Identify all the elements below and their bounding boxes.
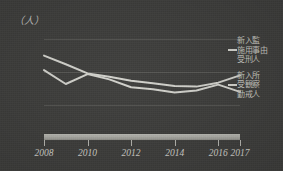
plot-area xyxy=(44,26,240,138)
line-series-group xyxy=(44,26,240,138)
x-axis-tick-mark xyxy=(240,140,241,146)
gridline xyxy=(44,39,240,40)
legend-label-line: 施用事由 xyxy=(237,46,283,56)
gridline xyxy=(44,105,240,106)
x-axis-tick-label: 2014 xyxy=(165,148,184,158)
legend-label-line: 受刑人 xyxy=(237,55,283,65)
x-axis-bar xyxy=(44,134,240,140)
legend-label-line: 受観察 xyxy=(237,80,283,90)
x-axis-tick-label: 2012 xyxy=(122,148,141,158)
legend-label-line: 新入監 xyxy=(237,36,283,46)
legend-item-series-shinnyusho: 新入所受観察勤戒人 xyxy=(237,71,283,100)
legend-label-line: 勤戒人 xyxy=(237,90,283,100)
x-axis-tick-label: 2010 xyxy=(78,148,97,158)
legend-line-swatch xyxy=(228,84,237,86)
x-axis-tick-label: 2016 xyxy=(209,148,228,158)
y-axis-tick-labels: 15,00010,0005,0000 xyxy=(0,0,42,171)
legend-label-line: 新入所 xyxy=(237,71,283,81)
x-axis-tick-label: 2017 xyxy=(231,148,250,158)
x-axis-tick-mark xyxy=(218,140,219,146)
chart-figure: （人） 15,00010,0005,0000 20082010201220142… xyxy=(0,0,283,171)
legend-line-swatch xyxy=(228,49,237,51)
chart-legend: 新入監施用事由受刑人新入所受観察勤戒人 xyxy=(237,36,283,102)
legend-item-series-shinnyukan: 新入監施用事由受刑人 xyxy=(237,36,283,65)
x-axis-tick-mark xyxy=(175,140,176,146)
x-axis-tick-labels: 200820102012201420162017 xyxy=(0,148,283,168)
gridline xyxy=(44,72,240,73)
x-axis-tick-mark xyxy=(131,140,132,146)
x-axis-tick-mark xyxy=(88,140,89,146)
x-axis-tick-mark xyxy=(44,140,45,146)
x-axis-tick-label: 2008 xyxy=(35,148,54,158)
